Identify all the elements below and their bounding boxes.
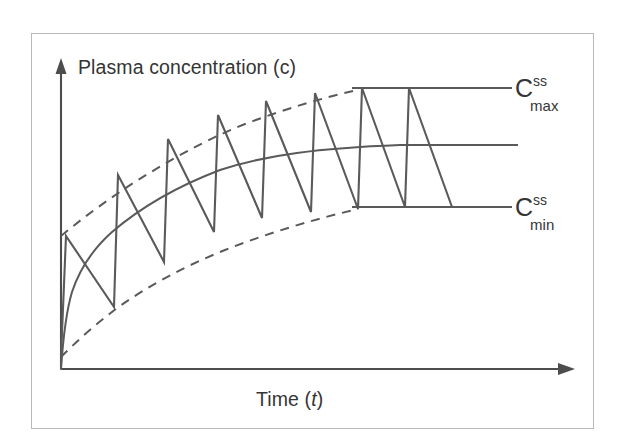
cmax-label-superscript: ss: [533, 73, 547, 89]
x-axis-title-text: Time: [256, 388, 299, 410]
figure-root: Plasma concentration (c) Time (t) Cssmax…: [0, 0, 617, 445]
x-axis-arrowhead: [558, 363, 575, 375]
x-axis-title: Time (t): [256, 388, 323, 410]
cmin-label: Cssmin: [515, 192, 554, 233]
cmax-label-subscript: max: [530, 97, 559, 114]
y-axis-title-variable: (c): [273, 56, 296, 78]
cmin-label-superscript: ss: [533, 192, 547, 208]
pharmacokinetics-plot: Plasma concentration (c) Time (t) Cssmax…: [0, 0, 617, 445]
cmax-label: Cssmax: [515, 73, 559, 114]
y-axis-title: Plasma concentration (c): [78, 56, 296, 78]
cmin-label-subscript: min: [530, 216, 554, 233]
sawtooth-concentration-profile: [61, 88, 452, 357]
mean-concentration-curve: [61, 145, 400, 369]
lower-envelope-dashed-curve: [61, 209, 358, 357]
y-axis-title-text: Plasma concentration: [78, 56, 268, 78]
y-axis-arrowhead: [56, 58, 67, 74]
